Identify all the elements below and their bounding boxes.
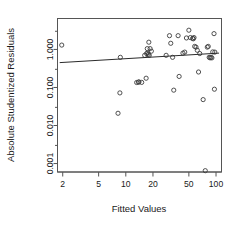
data-point	[118, 91, 122, 95]
data-point	[212, 87, 216, 91]
x-tick-label: 20	[148, 179, 158, 189]
x-tick-label: 2	[60, 179, 65, 189]
x-tick-label: 50	[184, 179, 194, 189]
y-tick-label: 1.000	[46, 38, 56, 60]
trend-line	[60, 53, 219, 63]
data-points	[60, 28, 217, 173]
x-tick-label: 10	[121, 179, 131, 189]
data-point	[212, 32, 216, 36]
data-point	[196, 70, 200, 74]
plot-frame	[58, 19, 222, 173]
data-point	[169, 41, 173, 45]
data-point	[201, 98, 205, 102]
plot-border	[58, 19, 222, 173]
data-point	[176, 34, 180, 38]
plot-canvas: 1.0000.1000.0100.001 25102050100 Absolut…	[0, 0, 242, 229]
data-point	[177, 74, 181, 78]
data-point	[116, 111, 120, 115]
data-point	[167, 34, 171, 38]
y-axis-title: Absolute Studentized Residuals	[5, 28, 16, 162]
trend-line-path	[60, 53, 219, 63]
scatter-plot-figure: 1.0000.1000.0100.001 25102050100 Absolut…	[0, 0, 242, 229]
x-axis: 25102050100	[58, 172, 224, 189]
x-tick-label: 5	[96, 179, 101, 189]
y-axis: 1.0000.1000.0100.001	[46, 19, 58, 175]
data-point	[147, 40, 151, 44]
y-tick-label: 0.001	[46, 153, 56, 175]
data-point	[187, 28, 191, 32]
data-point	[198, 51, 202, 55]
data-point	[60, 43, 64, 47]
data-point	[144, 76, 148, 80]
x-axis-title: Fitted Values	[112, 203, 167, 214]
data-point	[172, 88, 176, 92]
x-tick-label: 100	[209, 179, 224, 189]
y-tick-label: 0.010	[46, 115, 56, 137]
y-tick-label: 0.100	[46, 77, 56, 99]
